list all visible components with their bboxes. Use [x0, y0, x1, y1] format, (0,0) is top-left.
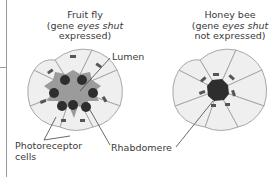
lumen-label: Lumen	[112, 52, 144, 63]
photoreceptor-label: Photoreceptor cells	[15, 141, 82, 162]
fruit-fly-ommatidium	[28, 49, 123, 130]
rhabdomere-label: Rhabdomere	[111, 143, 172, 154]
honey-bee-ommatidium	[173, 49, 267, 130]
